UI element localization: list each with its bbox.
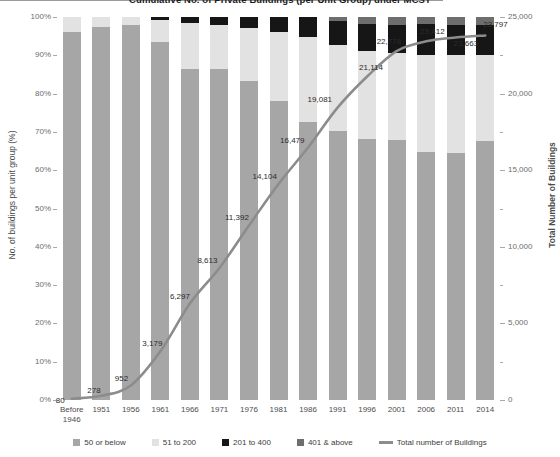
y-axis-right-tick-mark — [500, 170, 505, 171]
legend-label: 51 to 200 — [163, 438, 196, 447]
y-axis-right-tick-mark — [500, 247, 505, 248]
line-data-label: 16,479 — [280, 136, 304, 145]
chart-title: Cumulative No. of Private Buildings (per… — [0, 0, 560, 5]
legend-label: 50 or below — [84, 438, 125, 447]
y-axis-left-tick-label: 80% — [19, 89, 51, 98]
line-data-label: 21,114 — [359, 63, 383, 72]
y-axis-left-tick-label: 70% — [19, 127, 51, 136]
line-data-label: 23,412 — [420, 27, 444, 36]
legend-swatch-icon — [222, 439, 229, 446]
legend-label: 401 & above — [308, 438, 353, 447]
y-axis-left-tick-label: 90% — [19, 50, 51, 59]
y-axis-left-tick-label: 30% — [19, 280, 51, 289]
y-axis-right-tick-label: 20,000 — [508, 89, 532, 98]
y-axis-right-tick-mark — [500, 132, 503, 133]
y-axis-left-tick-label: 50% — [19, 204, 51, 213]
y-axis-right-tick-mark — [500, 55, 503, 56]
line-data-label: 6,297 — [170, 292, 190, 301]
line-path — [72, 35, 485, 398]
legend-label: 201 to 400 — [233, 438, 271, 447]
line-data-label: 278 — [87, 386, 100, 395]
legend-swatch-icon — [73, 439, 80, 446]
x-axis-label: 2014 — [462, 405, 508, 415]
y-axis-left-tick-label: 60% — [19, 165, 51, 174]
legend-item[interactable]: 401 & above — [297, 438, 353, 447]
y-axis-right-tick-label: 5,000 — [508, 318, 528, 327]
plot-area: 802789523,1796,2978,61311,39214,10416,47… — [57, 17, 500, 400]
legend-item[interactable]: 50 or below — [73, 438, 125, 447]
line-data-label: 11,392 — [225, 213, 249, 222]
line-data-label: 3,179 — [142, 339, 162, 348]
y-axis-right-tick-label: 15,000 — [508, 165, 532, 174]
y-axis-left-tick-label: 40% — [19, 242, 51, 251]
legend-swatch-icon — [152, 439, 159, 446]
legend-swatch-icon — [297, 439, 304, 446]
y-axis-right-tick-label: 0 — [508, 395, 512, 404]
y-axis-right-tick-label: 10,000 — [508, 242, 532, 251]
legend-item[interactable]: Total number of Buildings — [379, 438, 487, 447]
total-buildings-line — [57, 17, 500, 400]
chart-legend: 50 or below51 to 200201 to 400401 & abov… — [0, 438, 560, 447]
y-axis-right-tick-mark — [500, 400, 505, 401]
legend-item[interactable]: 51 to 200 — [152, 438, 196, 447]
legend-line-icon — [379, 441, 393, 444]
chart-container: Cumulative No. of Private Buildings (per… — [0, 0, 560, 457]
legend-label: Total number of Buildings — [397, 438, 487, 447]
y-axis-right-tick-mark — [500, 362, 503, 363]
y-axis-left-tick-label: 10% — [19, 357, 51, 366]
y-axis-right-tick-mark — [500, 285, 503, 286]
y-axis-right-tick-mark — [500, 209, 503, 210]
y-axis-left-tick-label: 20% — [19, 318, 51, 327]
y-axis-left-tick-label: 0% — [19, 395, 51, 404]
line-data-label: 22,778 — [377, 37, 401, 46]
line-data-label: 14,104 — [253, 172, 277, 181]
line-data-label: 19,081 — [308, 95, 332, 104]
y-axis-right-tick-label: 25,000 — [508, 12, 532, 21]
y-axis-right-tick-mark — [500, 323, 505, 324]
line-data-label: 23,663 — [454, 39, 478, 48]
line-data-label: 80 — [56, 396, 65, 405]
y-axis-left-tick-label: 100% — [19, 12, 51, 21]
line-data-label: 23,797 — [483, 20, 507, 29]
y-axis-left-title: No. of buildings per unit group (%) — [7, 95, 17, 295]
legend-item[interactable]: 201 to 400 — [222, 438, 271, 447]
y-axis-right-title: Total Number of Buildings — [547, 95, 557, 295]
y-axis-right-tick-mark — [500, 17, 505, 18]
line-data-label: 8,613 — [197, 256, 217, 265]
line-data-label: 952 — [115, 374, 128, 383]
y-axis-right-tick-mark — [500, 94, 505, 95]
